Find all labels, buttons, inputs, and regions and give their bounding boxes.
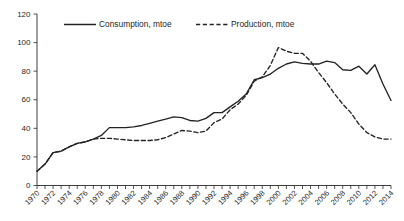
y-tick-label: 20 — [22, 153, 31, 162]
legend-label-production: Production, mtoe — [231, 19, 295, 29]
legend-label-consumption: Consumption, mtoe — [99, 19, 172, 29]
y-tick-label: 0 — [26, 181, 31, 190]
y-tick-label: 120 — [17, 10, 31, 19]
chart-background — [0, 0, 404, 221]
line-chart: 020406080100120 197019721974197619781980… — [0, 0, 404, 221]
y-tick-label: 40 — [22, 124, 31, 133]
chart-container: 020406080100120 197019721974197619781980… — [0, 0, 404, 221]
y-tick-label: 60 — [22, 95, 31, 104]
y-tick-label: 80 — [22, 67, 31, 76]
y-tick-label: 100 — [17, 38, 31, 47]
